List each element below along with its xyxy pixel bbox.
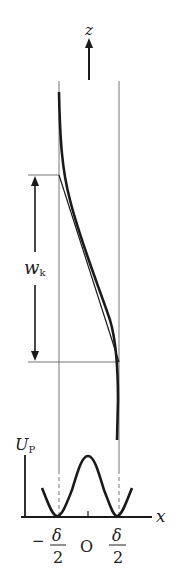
width-label: wk [24,257,46,278]
x-axis-label: x [156,506,166,526]
svg-text:−: − [32,532,45,550]
svg-text:2: 2 [113,548,123,567]
tangent-line [59,175,119,362]
z-axis-label: z [84,21,93,39]
kink-profile-diagram: z wk UP x − δ 2 O δ 2 [0,0,184,577]
z-axis-arrow [85,38,93,80]
tick-label-minus-delta-half: − δ 2 [32,526,66,567]
tick-label-delta-half: δ 2 [109,526,126,567]
svg-text:δ: δ [112,526,122,545]
origin-label: O [80,537,93,556]
potential-label: UP [15,435,35,455]
svg-text:2: 2 [53,548,63,567]
svg-text:δ: δ [52,526,62,545]
